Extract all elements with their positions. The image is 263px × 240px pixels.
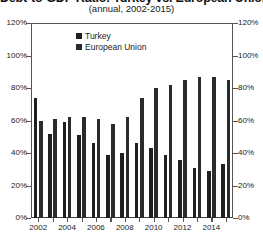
y-axis-right-tick-mark: [233, 153, 238, 154]
bar-turkey-2003: [48, 134, 52, 219]
legend-swatch-icon: [76, 44, 82, 50]
legend-item-label: Turkey: [85, 32, 111, 41]
x-axis-tick-mark: [139, 218, 140, 222]
legend-swatch-icon: [76, 33, 82, 39]
bar-european-union-2006: [97, 119, 101, 218]
y-axis-left-tick-mark: [26, 88, 31, 89]
y-axis-right-tick-label: 40%: [238, 149, 254, 157]
x-axis-tick-mark: [211, 218, 212, 222]
y-axis-right-tick-label: 20%: [238, 182, 254, 190]
bar-european-union-2012: [183, 80, 187, 218]
bar-turkey-2011: [164, 155, 168, 218]
y-axis-left-tick-mark: [26, 186, 31, 187]
y-axis-right-tick-mark: [233, 88, 238, 89]
x-axis-tick-mark: [38, 218, 39, 222]
bar-turkey-2010: [149, 148, 153, 218]
y-axis-right-tick-mark: [233, 186, 238, 187]
bar-turkey-2007: [106, 155, 110, 218]
bar-european-union-2010: [154, 88, 158, 218]
chart-legend: TurkeyEuropean Union: [76, 32, 146, 51]
y-axis-right-tick-mark: [233, 218, 238, 219]
bar-turkey-2002: [34, 98, 38, 218]
bar-european-union-2007: [111, 124, 115, 218]
x-axis-tick-mark: [183, 218, 184, 222]
bar-turkey-2005: [77, 135, 81, 218]
y-axis-left-tick-mark: [26, 56, 31, 57]
x-axis-tick-label: 2004: [58, 224, 76, 232]
y-axis-left-tick-mark: [26, 23, 31, 24]
y-axis-right-tick-label: 120%: [238, 19, 258, 27]
y-axis-left-tick-label: 100%: [7, 52, 27, 60]
bar-turkey-2006: [92, 143, 96, 218]
y-axis-left-tick-mark: [26, 218, 31, 219]
x-axis-tick-mark: [125, 218, 126, 222]
bar-turkey-2012: [178, 160, 182, 219]
legend-item: Turkey: [76, 32, 146, 41]
y-axis-left-tick-label: 60%: [11, 117, 27, 125]
y-axis-right-tick-mark: [233, 121, 238, 122]
x-axis-tick-mark: [110, 218, 111, 222]
bar-european-union-2008: [126, 117, 130, 218]
bar-european-union-2004: [68, 117, 72, 218]
chart-subtitle: (annual, 2002-2015): [0, 3, 263, 14]
y-axis-left-tick-mark: [26, 121, 31, 122]
x-axis-tick-label: 2010: [145, 224, 163, 232]
bar-turkey-2013: [193, 168, 197, 218]
bar-series-group: [31, 23, 233, 218]
x-axis-tick-mark: [67, 218, 68, 222]
y-axis-right-tick-label: 80%: [238, 84, 254, 92]
bar-turkey-2004: [63, 122, 67, 218]
y-axis-left-tick-label: 120%: [7, 19, 27, 27]
y-axis-right-tick-mark: [233, 23, 238, 24]
bar-european-union-2005: [82, 117, 86, 218]
x-axis-tick-mark: [226, 218, 227, 222]
bar-turkey-2014: [207, 171, 211, 218]
chart-figure: Debt-to-GDP Ratio: Turkey vs. European U…: [0, 0, 263, 240]
x-axis-tick-mark: [154, 218, 155, 222]
legend-item-label: European Union: [85, 43, 146, 52]
bar-european-union-2011: [169, 85, 173, 218]
x-axis-tick-label: 2002: [29, 224, 47, 232]
x-axis-tick-mark: [168, 218, 169, 222]
x-axis-tick-mark: [53, 218, 54, 222]
x-axis-tick-label: 2006: [87, 224, 105, 232]
y-axis-left-tick-label: 80%: [11, 84, 27, 92]
x-axis-tick-label: 2012: [174, 224, 192, 232]
bar-turkey-2009: [135, 143, 139, 218]
bar-european-union-2015: [227, 80, 231, 218]
bar-european-union-2009: [140, 98, 144, 218]
x-axis-tick-mark: [96, 218, 97, 222]
y-axis-left-tick-label: 40%: [11, 149, 27, 157]
legend-item: European Union: [76, 43, 146, 52]
y-axis-right-tick-mark: [233, 56, 238, 57]
bar-european-union-2002: [39, 121, 43, 219]
x-axis-tick-mark: [197, 218, 198, 222]
y-axis-right-tick-label: 60%: [238, 117, 254, 125]
bar-turkey-2015: [221, 164, 225, 218]
x-axis-tick-label: 2008: [116, 224, 134, 232]
bar-european-union-2003: [53, 119, 57, 218]
y-axis-left-tick-mark: [26, 153, 31, 154]
y-axis-left-tick-label: 20%: [11, 182, 27, 190]
bar-european-union-2014: [212, 77, 216, 218]
y-axis-right-tick-label: 100%: [238, 52, 258, 60]
x-axis-tick-mark: [82, 218, 83, 222]
x-axis-tick-label: 2014: [202, 224, 220, 232]
y-axis-right-tick-label: 0%: [238, 214, 250, 222]
bar-european-union-2013: [198, 77, 202, 218]
bar-turkey-2008: [120, 153, 124, 218]
